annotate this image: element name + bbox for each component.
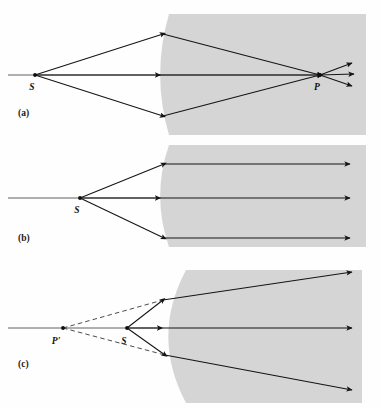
panel-c-virtual-ray-upper (63, 300, 163, 328)
optics-figure: Converging rays from a real object S for… (0, 0, 380, 409)
panel-b: Object S at the focal point: refracted r… (8, 145, 366, 247)
panel-a-upper-ray-incident (35, 34, 163, 75)
panel-b-medium-region (160, 145, 366, 247)
panel-c-label-S: S (121, 336, 126, 346)
panel-c-virtual-ray-lower (63, 328, 165, 355)
panel-a-label-S: S (29, 82, 34, 92)
panel-a: Converging rays from a real object S for… (8, 14, 366, 135)
panel-a-point-P (318, 73, 322, 77)
panel-c-point-S (125, 326, 129, 330)
panel-label-c: (c) (18, 359, 29, 370)
panels-layer: Converging rays from a real object S for… (8, 14, 366, 403)
panel-b-label-S: S (74, 205, 79, 215)
panel-c: Object S inside the focal point: refract… (8, 270, 362, 403)
panel-c-point-P-prime (61, 326, 65, 330)
panel-b-point-S (78, 196, 82, 200)
panel-c-label-P-prime: P' (52, 336, 61, 346)
panel-b-lower-ray-incident (80, 198, 164, 238)
panel-b-upper-ray-incident (80, 164, 164, 198)
panel-c-lower-ray-incident (127, 328, 165, 355)
panel-a-point-S (33, 73, 37, 77)
panel-a-lower-ray-incident (35, 75, 163, 116)
panel-a-label-P: P (314, 82, 320, 92)
panel-c-upper-ray-incident (127, 300, 163, 328)
figure-root: Converging rays from a real object S for… (0, 0, 380, 409)
panel-label-b: (b) (18, 233, 30, 244)
panel-c-medium-region (168, 270, 362, 403)
panel-label-a: (a) (18, 108, 29, 119)
